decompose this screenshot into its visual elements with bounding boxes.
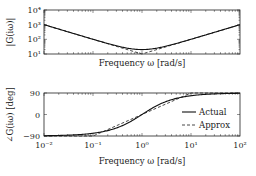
magnitude-actual-line xyxy=(44,25,240,50)
phase-x-tick-label: 10¹ xyxy=(184,141,197,150)
magnitude-plot: 10¹10²10³10⁴ Frequency ω [rad/s] |G(iω)| xyxy=(5,6,240,68)
bode-plot: 10¹10²10³10⁴ Frequency ω [rad/s] |G(iω)|… xyxy=(0,0,256,176)
magnitude-y-axis-label: |G(iω)| xyxy=(5,18,16,47)
phase-y-tick-labels: −90090 xyxy=(23,89,40,141)
legend-approx-label: Approx xyxy=(198,120,230,130)
phase-y-tick-label: −90 xyxy=(23,132,40,141)
phase-x-tick-label: 10² xyxy=(233,141,246,150)
magnitude-ticks xyxy=(44,10,240,54)
magnitude-y-tick-label: 10³ xyxy=(28,21,41,30)
magnitude-y-tick-label: 10¹ xyxy=(28,50,41,59)
magnitude-y-tick-labels: 10¹10²10³10⁴ xyxy=(28,6,41,59)
magnitude-y-tick-label: 10² xyxy=(28,35,41,44)
legend: Actual Approx xyxy=(182,107,230,130)
phase-y-tick-label: 90 xyxy=(30,89,40,98)
phase-x-tick-label: 10⁻¹ xyxy=(84,141,102,150)
phase-plot: −90090 10⁻²10⁻¹10⁰10¹10² Frequency ω [ra… xyxy=(5,87,247,166)
phase-x-tick-label: 10⁰ xyxy=(135,141,148,150)
phase-x-tick-labels: 10⁻²10⁻¹10⁰10¹10² xyxy=(35,141,247,150)
legend-actual-label: Actual xyxy=(198,107,227,117)
phase-x-tick-label: 10⁻² xyxy=(35,141,53,150)
phase-y-tick-label: 0 xyxy=(35,111,40,120)
phase-y-axis-label: ∠G(iω) [deg] xyxy=(5,87,15,142)
magnitude-x-axis-label: Frequency ω [rad/s] xyxy=(99,58,186,68)
magnitude-y-tick-label: 10⁴ xyxy=(28,6,41,15)
magnitude-axes-frame xyxy=(44,10,240,54)
phase-x-axis-label: Frequency ω [rad/s] xyxy=(99,156,186,166)
